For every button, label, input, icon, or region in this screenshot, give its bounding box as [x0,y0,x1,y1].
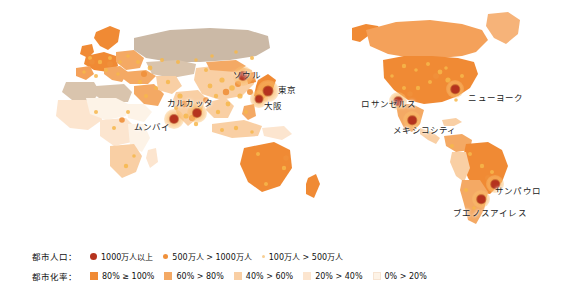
legend-item-urbanization-20-40: 20% > 40% [303,272,362,281]
legend-label-urbanization-80-100: 80% ≥ 100% [102,272,154,281]
legend-item-population-5m-10m: 500万人 > 1000万人 [163,251,251,262]
city-label-sao-paulo: サンパウロ [495,184,541,196]
map-legend: 都市人口： 1000万人以上 500万人 > 1000万人 100万人 > 50… [0,242,569,302]
legend-item-population-over-10m: 1000万人以上 [90,251,153,262]
city-marker-tokyo [264,87,273,96]
legend-title-urbanization: 都市化率： [32,270,90,282]
city-label-kolkata: カルカッタ [167,96,213,108]
city-marker-buenos-aires [477,195,485,203]
legend-item-urbanization-0-20: 0% > 20% [373,272,427,281]
legend-label-urbanization-40-60: 40% > 60% [246,272,293,281]
city-label-mexico-city: メキシコシティ [393,123,456,135]
city-marker-mumbai [170,115,178,123]
city-label-osaka: 大阪 [264,99,282,111]
city-label-new-york: ニューヨーク [468,91,523,103]
legend-dot-mega-city [90,253,97,260]
legend-item-urbanization-80-100: 80% ≥ 100% [90,272,154,281]
city-marker-kolkata [193,109,201,117]
city-label-los-angeles: ロサンゼルス [361,97,416,109]
legend-swatch-urbanization-40-60 [234,272,242,280]
legend-label-population-5m-10m: 500万人 > 1000万人 [172,251,251,262]
legend-label-urbanization-20-40: 20% > 40% [315,272,362,281]
legend-item-urbanization-60-80: 60% > 80% [164,272,223,281]
legend-dot-medium-city [262,255,265,258]
city-label-mumbai: ムンバイ [134,120,171,132]
legend-row-urbanization: 都市化率： 80% ≥ 100% 60% > 80% 40% > 60% 20%… [32,268,569,284]
legend-swatch-urbanization-60-80 [164,272,172,280]
legend-label-population-over-10m: 1000万人以上 [101,251,153,262]
legend-title-population: 都市人口： [32,250,90,262]
city-label-buenos-aires: ブエノスアイレス [453,206,527,218]
legend-dot-large-city [163,254,168,259]
legend-swatch-urbanization-20-40 [303,272,311,280]
city-marker-new-york [451,85,459,93]
legend-label-urbanization-0-20: 0% > 20% [385,272,427,281]
city-label-seoul: ソウル [233,68,261,80]
city-marker-osaka [256,96,263,103]
legend-item-population-1m-5m: 100万人 > 500万人 [262,251,343,262]
legend-row-population: 都市人口： 1000万人以上 500万人 > 1000万人 100万人 > 50… [32,248,569,264]
legend-label-urbanization-60-80: 60% > 80% [176,272,223,281]
city-label-tokyo: 東京 [278,83,296,95]
legend-swatch-urbanization-80-100 [90,272,98,280]
world-map-figure: ソウル 東京 大阪 カルカッタ ムンバイ ロサンゼルス ニューヨーク メキシコシ… [0,0,569,302]
legend-label-population-1m-5m: 100万人 > 500万人 [269,251,343,262]
legend-item-urbanization-40-60: 40% > 60% [234,272,293,281]
legend-swatch-urbanization-0-20 [373,272,381,280]
